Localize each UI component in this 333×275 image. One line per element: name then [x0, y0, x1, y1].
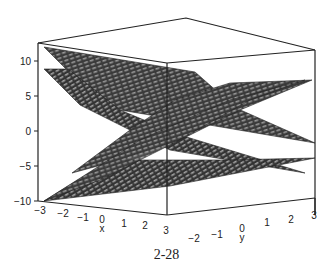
- figure-caption: 2-28: [0, 247, 333, 263]
- y-tick: −1: [211, 229, 223, 240]
- z-tick-neg5: −5: [20, 161, 32, 172]
- surface-plot: 10 5 0 −5 −10 −3 −2 −1 0 x 1 2 3 −2 −1 0…: [0, 0, 333, 245]
- x-tick: −1: [77, 212, 89, 223]
- x-tick: −3: [34, 205, 46, 216]
- x-tick: −2: [57, 208, 69, 219]
- z-tick-0: 0: [25, 126, 31, 137]
- y-tick: 1: [264, 217, 270, 228]
- y-tick: −2: [188, 233, 200, 244]
- x-tick: 3: [163, 225, 169, 236]
- z-tick-10: 10: [20, 56, 32, 67]
- y-axis: −2 −1 0 y 1 2 3: [188, 210, 317, 244]
- x-axis-label: x: [100, 223, 105, 234]
- z-tick-5: 5: [25, 91, 31, 102]
- x-tick: 2: [142, 220, 148, 231]
- y-axis-label: y: [240, 232, 245, 243]
- y-tick: 2: [288, 214, 294, 225]
- x-axis: −3 −2 −1 0 x 1 2 3: [34, 205, 169, 236]
- x-tick: 1: [121, 218, 127, 229]
- y-tick: 3: [311, 210, 317, 221]
- z-tick-neg10: −10: [14, 196, 31, 207]
